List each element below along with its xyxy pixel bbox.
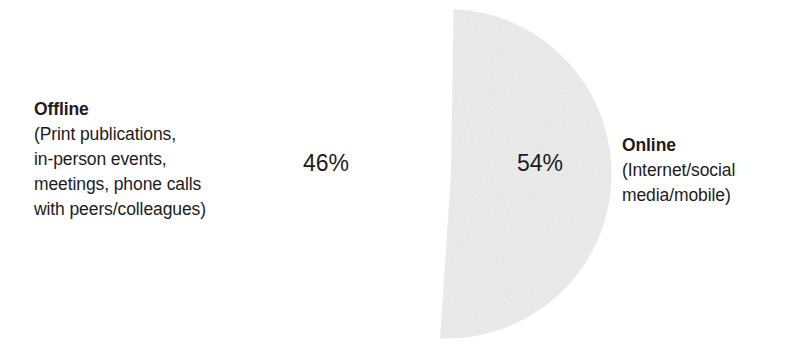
legend-online-line-1: (Internet/social	[622, 158, 735, 183]
value-label-offline: 46%	[303, 152, 349, 175]
legend-offline-title: Offline	[34, 97, 206, 122]
legend-offline-line-3: meetings, phone calls	[34, 172, 206, 197]
legend-offline-line-2: in-person events,	[34, 147, 206, 172]
value-label-online: 54%	[517, 152, 563, 175]
legend-offline-line-4: with peers/colleagues)	[34, 197, 206, 222]
legend-online-line-2: media/mobile)	[622, 183, 735, 208]
legend-online-title: Online	[622, 133, 735, 158]
legend-offline: Offline (Print publications, in-person e…	[34, 97, 206, 222]
legend-online: Online (Internet/social media/mobile)	[622, 133, 735, 208]
pie-chart-figure: Offline (Print publications, in-person e…	[0, 0, 798, 346]
legend-offline-line-1: (Print publications,	[34, 122, 206, 147]
